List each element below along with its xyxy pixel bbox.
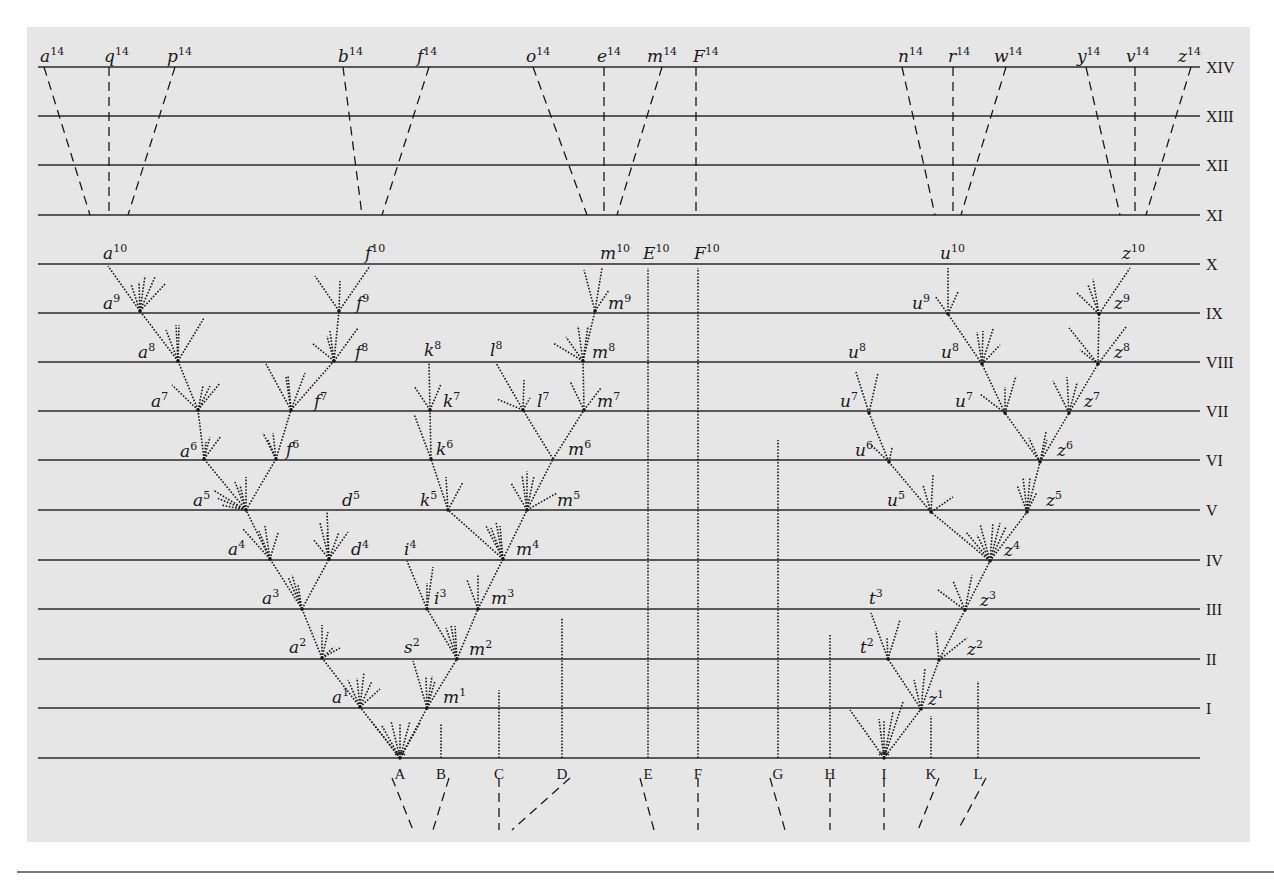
- branch-node: [196, 408, 200, 412]
- node-label: m8: [592, 341, 615, 362]
- lineage-edge: [523, 410, 553, 459]
- offshoot-ray: [330, 331, 334, 361]
- offshoot-ray: [270, 533, 278, 559]
- branch-node: [1003, 411, 1007, 415]
- lineage-edge: [198, 410, 204, 459]
- lineage-edge: [1027, 462, 1040, 512]
- generation-numeral: XI: [1206, 207, 1223, 224]
- branch-node: [867, 411, 871, 415]
- lineage-edge: [982, 364, 1005, 413]
- descendant-label: y14: [1076, 45, 1101, 66]
- branch-node: [300, 607, 304, 611]
- generation-superscript: 7: [1093, 390, 1100, 403]
- branch-node: [138, 309, 142, 313]
- generation-superscript: 6: [292, 438, 299, 451]
- descendant-label: b14: [338, 45, 363, 66]
- branch-node: [289, 408, 293, 412]
- generation-superscript: 8: [495, 339, 502, 352]
- node-label: k7: [443, 390, 460, 411]
- node-label: d5: [342, 489, 360, 510]
- node-label: u8: [848, 341, 866, 362]
- root-species-label: A: [395, 766, 406, 782]
- offshoot-ray: [312, 343, 334, 361]
- node-label: i4: [404, 538, 416, 559]
- generation-superscript: 14: [1087, 45, 1101, 58]
- lineage-edge: [884, 709, 921, 758]
- generation-superscript: 9: [923, 292, 930, 305]
- offshoot-ray: [198, 386, 210, 410]
- node-label: i3: [434, 587, 446, 608]
- lineage-edge: [429, 363, 430, 410]
- descendant-branch: [382, 67, 429, 215]
- generation-superscript: 8: [859, 341, 866, 354]
- node-label: E10: [642, 242, 669, 263]
- offshoot-ray: [329, 532, 339, 559]
- branch-node: [429, 457, 433, 461]
- node-label: f7: [312, 390, 327, 411]
- node-label: m9: [608, 292, 631, 313]
- offshoot-ray: [291, 373, 305, 410]
- generation-numeral: VI: [1206, 452, 1223, 469]
- generation-numeral: VIII: [1206, 354, 1234, 371]
- generation-superscript: 5: [203, 489, 210, 502]
- offshoot-ray: [1067, 377, 1069, 413]
- root-species-label: E: [643, 766, 652, 782]
- node-label: z2: [966, 638, 983, 659]
- offshoot-ray: [1027, 477, 1030, 512]
- lineage-edge: [430, 410, 431, 459]
- lineage-edge: [413, 661, 427, 708]
- lineage-edge: [302, 559, 329, 609]
- branch-node: [937, 658, 941, 662]
- node-label: u7: [840, 390, 858, 411]
- generation-superscript: 14: [115, 45, 129, 58]
- generation-superscript: 9: [1123, 292, 1130, 305]
- generation-superscript: 1: [459, 686, 466, 699]
- ancestral-dash: [392, 778, 413, 830]
- descendant-label: a14: [40, 45, 64, 66]
- generation-numeral: IV: [1206, 552, 1223, 569]
- node-label: a10: [103, 242, 127, 263]
- descendant-branch: [1086, 67, 1120, 215]
- node-label: m4: [516, 538, 539, 559]
- offshoot-ray: [1040, 440, 1047, 462]
- offshoot-ray: [850, 710, 884, 758]
- offshoot-ray: [523, 380, 524, 410]
- node-label: a3: [262, 587, 279, 608]
- offshoot-ray: [414, 414, 431, 459]
- node-labels: a1a2a3a4a5a6a7a8a9a10d4d5f6f7f8f9f10s2i3…: [103, 242, 1145, 709]
- offshoot-ray: [172, 385, 198, 410]
- lineage-edge: [583, 361, 584, 410]
- offshoot-ray: [1069, 328, 1098, 364]
- offshoot-ray: [914, 680, 921, 709]
- ancestral-dash: [918, 778, 939, 830]
- node-label: z8: [1113, 341, 1130, 362]
- generation-superscript: 14: [50, 45, 64, 58]
- offshoot-ray: [888, 620, 900, 659]
- branch-node: [202, 457, 206, 461]
- descendant-branch: [343, 67, 362, 215]
- ancestral-dash: [958, 778, 986, 830]
- descendant-branch: [961, 67, 1006, 215]
- lineage-edge: [948, 314, 982, 364]
- offshoot-ray: [360, 672, 364, 707]
- node-label: a8: [138, 341, 155, 362]
- generation-superscript: 5: [353, 489, 360, 502]
- lineage-edge: [888, 659, 921, 709]
- node-label: u10: [940, 242, 965, 263]
- node-label: a4: [228, 538, 245, 559]
- node-label: z6: [1056, 439, 1073, 460]
- offshoot-ray: [204, 442, 206, 459]
- generation-superscript: 6: [584, 438, 591, 451]
- branch-node: [320, 656, 324, 660]
- offshoot-ray: [931, 475, 933, 512]
- branch-node: [398, 756, 402, 760]
- generation-superscript: 7: [161, 390, 168, 403]
- generation-superscript: 6: [1066, 439, 1073, 452]
- offshoot-ray: [448, 482, 463, 510]
- branch-node: [455, 657, 459, 661]
- descendant-label: e14: [597, 45, 621, 66]
- generation-superscript: 10: [951, 242, 965, 255]
- node-label: t2: [860, 636, 874, 657]
- lineage-edge: [527, 459, 553, 510]
- lineage-edge: [204, 459, 246, 510]
